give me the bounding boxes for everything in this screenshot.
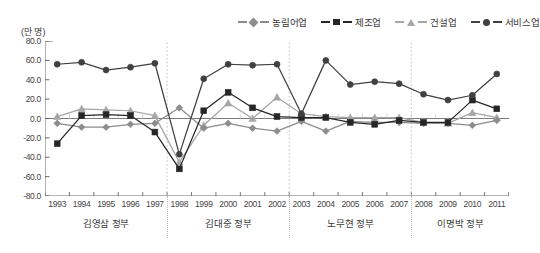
circle-marker [396,81,402,87]
x-tick-label: 1999 [195,199,213,209]
era-label: 김대중 정부 [205,216,251,230]
square-marker [128,113,134,119]
era-divider-extension [167,196,168,238]
x-tick-label: 2007 [390,199,408,209]
series-circle [54,57,500,157]
legend-line-right [493,21,502,23]
legend-item[interactable]: 농림어업 [238,15,307,29]
legend-line-left [238,21,247,23]
square-marker [323,115,329,121]
series-canvas [45,41,509,196]
legend-line-right [418,21,427,23]
y-tick-label: 20.0 [26,94,41,104]
x-tick-label: 2010 [464,199,482,209]
era-divider-extension [289,196,290,238]
circle-marker [79,59,85,65]
square-marker [79,113,85,119]
circle-marker [274,61,280,67]
square-marker [250,105,256,111]
triangle-marker [225,99,232,106]
y-tick-label: 80.0 [26,36,41,46]
legend-item[interactable]: 건설업 [395,15,456,29]
era-label: 이명박 정부 [437,216,483,230]
square-marker [201,108,207,114]
legend-line-left [321,21,330,23]
x-tick-label: 2000 [219,199,237,209]
square-marker [396,118,402,124]
square-marker [103,112,109,118]
x-tick-label: 1994 [73,199,91,209]
square-marker [225,89,231,95]
square-marker [152,129,158,135]
y-tick-label: -40.0 [23,152,41,162]
x-tick-label: 2005 [341,199,359,209]
diamond-marker [322,128,329,135]
square-marker [176,166,182,172]
x-tick-label: 2009 [439,199,457,209]
x-tick-label: 2004 [317,199,335,209]
circle-marker [494,71,500,77]
circle-marker [298,111,304,117]
circle-marker [225,61,231,67]
circle-marker [54,61,60,67]
legend-line-left [395,21,404,23]
x-tick-label: 1993 [48,199,66,209]
circle-marker [421,91,427,97]
legend-label: 제조업 [355,15,381,29]
legend-label: 농림어업 [272,15,307,29]
legend-line-right [260,21,269,23]
square-marker [347,119,353,125]
square-marker [333,19,340,26]
legend-label: 서비스업 [505,15,540,29]
circle-marker [469,92,475,98]
square-marker [372,121,378,127]
circle-marker [250,62,256,68]
x-tick-label: 2001 [244,199,262,209]
circle-marker [176,151,182,157]
circle-marker [445,97,451,103]
plot-area [45,41,509,196]
diamond-marker [249,125,256,132]
y-axis-tick-labels: 80.060.040.020.00.0-20.0-40.0-60.0-80.0 [0,0,45,200]
x-tick-label: 1996 [122,199,140,209]
legend-line-right [343,21,352,23]
x-tick-label: 1997 [146,199,164,209]
y-tick-label: -80.0 [23,191,41,201]
x-tick-label: 2008 [415,199,433,209]
y-tick-label: 60.0 [26,55,41,65]
era-label: 김영삼 정부 [83,216,129,230]
y-tick-label: 40.0 [26,75,41,85]
square-marker [274,114,280,120]
square-marker [494,106,500,112]
legend-item[interactable]: 서비스업 [471,15,540,29]
legend-item[interactable]: 제조업 [321,15,381,29]
y-tick-label: 0.0 [30,114,41,124]
circle-marker [201,76,207,82]
chart-legend: 농림어업제조업건설업서비스업 [238,15,540,29]
x-tick-label: 1998 [170,199,188,209]
diamond-marker [274,128,281,135]
series-line [57,60,497,154]
era-labels: 김영삼 정부김대중 정부노무현 정부이명박 정부 [45,216,509,232]
circle-marker [323,57,329,63]
x-tick-label: 2006 [366,199,384,209]
diamond-marker [469,122,476,129]
diamond-marker [54,120,61,127]
x-tick-label: 2003 [293,199,311,209]
era-label: 노무현 정부 [327,216,373,230]
diamond-marker [225,120,232,127]
circle-marker [347,82,353,88]
square-marker [445,119,451,125]
square-marker [421,119,427,125]
circle-marker [127,64,133,70]
x-axis-tick-labels: 1993199419951996199719981999200020012002… [45,199,509,213]
circle-marker [103,67,109,73]
x-tick-label: 1995 [97,199,115,209]
square-marker [54,141,60,147]
circle-marker [483,19,490,26]
x-tick-label: 2011 [488,199,505,209]
legend-label: 건설업 [430,15,456,29]
diamond-marker [78,124,85,131]
legend-line-left [471,21,480,23]
